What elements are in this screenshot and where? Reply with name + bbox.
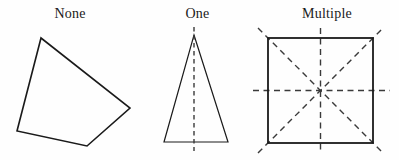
- symmetry-figure: None One Multiple: [0, 0, 399, 160]
- panel-multiple-shape-svg: [0, 0, 399, 160]
